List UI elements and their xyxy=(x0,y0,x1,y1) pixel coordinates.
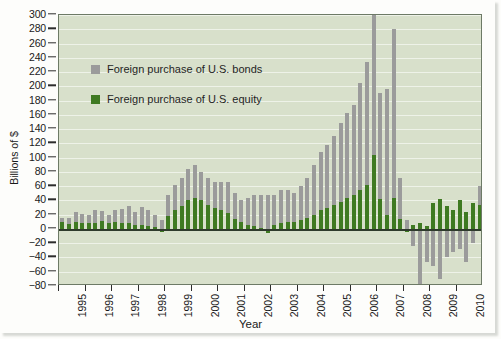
bar-bonds xyxy=(213,182,217,208)
bar-equity xyxy=(60,222,64,229)
bar-equity xyxy=(325,208,329,229)
bar-equity xyxy=(186,200,190,229)
y-tick-mark xyxy=(48,242,56,243)
bar-bonds xyxy=(279,190,283,223)
bar-equity xyxy=(451,210,455,229)
y-tick-label: 160 xyxy=(29,108,46,120)
bar-equity xyxy=(458,200,462,229)
bar-equity xyxy=(392,198,396,229)
bar-bonds xyxy=(312,165,316,215)
bar-bonds xyxy=(74,212,78,222)
bar-bonds xyxy=(219,182,223,211)
bar-bonds xyxy=(418,229,422,285)
bar-bonds xyxy=(398,178,402,219)
bar-bonds xyxy=(405,220,409,229)
bar-bonds xyxy=(272,195,276,225)
bar-equity xyxy=(113,222,117,229)
bar-equity xyxy=(173,210,177,229)
bar-bonds xyxy=(140,207,144,225)
bar-bonds xyxy=(186,169,190,200)
y-tick-mark xyxy=(48,284,56,285)
bar-equity xyxy=(100,221,104,229)
x-tick-label: 1997 xyxy=(129,294,141,317)
bar-equity xyxy=(213,208,217,229)
bar-bonds xyxy=(431,229,435,266)
bar-bonds xyxy=(445,229,449,258)
bar-equity xyxy=(305,218,309,229)
x-tick-mark xyxy=(270,285,271,291)
bar-equity xyxy=(206,205,210,229)
bar-bonds xyxy=(319,152,323,210)
bar-bonds xyxy=(478,186,482,205)
y-tick-label: 120 xyxy=(29,136,46,148)
y-tick-label: 20 xyxy=(35,208,46,220)
x-tick-label: 1995 xyxy=(76,294,88,317)
bar-equity xyxy=(286,222,290,229)
x-tick-label: 1996 xyxy=(103,294,115,317)
bar-bonds xyxy=(365,62,369,185)
y-tick-mark xyxy=(48,56,56,57)
y-tick-label: 80 xyxy=(35,165,46,177)
bar-bonds xyxy=(180,178,184,207)
bar-bonds xyxy=(458,229,462,249)
zero-baseline xyxy=(59,229,481,231)
bar-bonds xyxy=(372,15,376,155)
bar-equity xyxy=(319,210,323,229)
bar-equity xyxy=(339,202,343,229)
x-tick-mark xyxy=(403,285,404,291)
legend-label-bonds: Foreign purchase of U.S. bonds xyxy=(107,63,262,75)
x-tick-label: 1998 xyxy=(156,294,168,317)
gridline xyxy=(59,129,481,130)
bar-bonds xyxy=(60,218,64,222)
bar-equity xyxy=(74,222,78,229)
bar-bonds xyxy=(299,186,303,220)
y-tick-label: 60 xyxy=(35,179,46,191)
bar-bonds xyxy=(193,165,197,198)
bar-bonds xyxy=(286,190,290,221)
y-tick-mark xyxy=(48,113,56,114)
plot-area: Foreign purchase of U.S. bonds Foreign p… xyxy=(58,14,482,285)
y-tick-label: 40 xyxy=(35,193,46,205)
bar-bonds xyxy=(233,193,237,219)
y-tick-mark xyxy=(48,85,56,86)
bar-equity xyxy=(292,222,296,229)
x-tick-label: 2009 xyxy=(447,294,459,317)
gridline xyxy=(59,200,481,201)
y-tick-mark xyxy=(48,156,56,157)
y-tick-label: 220 xyxy=(29,65,46,77)
bar-equity xyxy=(385,215,389,229)
bar-bonds xyxy=(385,89,389,215)
bar-bonds xyxy=(146,210,150,226)
bar-equity xyxy=(352,195,356,229)
legend-item-bonds: Foreign purchase of U.S. bonds xyxy=(91,63,262,75)
y-tick-mark xyxy=(48,13,56,14)
x-tick-mark xyxy=(244,285,245,291)
gridline xyxy=(59,15,481,16)
x-tick-label: 2006 xyxy=(368,294,380,317)
bar-equity xyxy=(312,215,316,229)
x-tick-label: 2001 xyxy=(235,294,247,317)
bar-bonds xyxy=(153,215,157,227)
bar-bonds xyxy=(107,215,111,224)
bar-equity xyxy=(478,205,482,229)
bar-bonds xyxy=(113,210,117,221)
x-tick-label: 2008 xyxy=(421,294,433,317)
gridline xyxy=(59,115,481,116)
x-tick-mark xyxy=(297,285,298,291)
bar-bonds xyxy=(252,195,256,226)
gridline xyxy=(59,29,481,30)
bar-bonds xyxy=(67,218,71,224)
legend-swatch-equity xyxy=(91,95,100,104)
bar-bonds xyxy=(206,178,210,205)
x-tick-label: 2000 xyxy=(209,294,221,317)
x-axis-title: Year xyxy=(0,318,501,330)
bar-bonds xyxy=(411,229,415,246)
gridline xyxy=(59,86,481,87)
y-tick-mark xyxy=(48,42,56,43)
legend-label-equity: Foreign purchase of U.S. equity xyxy=(107,93,262,105)
bar-equity xyxy=(358,190,362,229)
bar-equity xyxy=(226,213,230,229)
y-tick-mark xyxy=(48,170,56,171)
x-tick-label: 2004 xyxy=(315,294,327,317)
bar-equity xyxy=(233,219,237,229)
